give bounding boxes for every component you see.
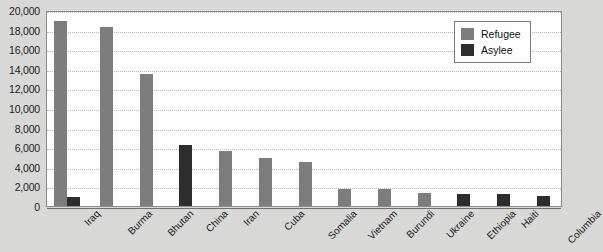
- y-axis-tick-label: 16,000: [9, 44, 40, 56]
- legend-item-refugee[interactable]: Refugee: [461, 26, 521, 42]
- x-axis-label-burundi: Burundi: [404, 208, 436, 240]
- x-axis-label-iraq: Iraq: [82, 208, 102, 228]
- bar-iran-refugee: [219, 151, 232, 206]
- y-axis-tick-label: 6,000: [15, 142, 40, 154]
- legend-label-asylee: Asylee: [481, 44, 513, 56]
- x-axis-label-cuba: Cuba: [282, 208, 307, 233]
- x-axis-label-iran: Iran: [241, 208, 261, 228]
- legend: RefugeeAsylee: [454, 21, 531, 63]
- y-axis-tick-label: 20,000: [9, 5, 40, 17]
- y-axis-tick-label: 4,000: [15, 162, 40, 174]
- legend-label-refugee: Refugee: [481, 28, 521, 40]
- y-axis-tick-label: 10,000: [9, 103, 40, 115]
- bar-iraq-asylee: [67, 197, 80, 206]
- y-axis-tick-label: 14,000: [9, 64, 40, 76]
- bar-somalia-refugee: [299, 162, 312, 206]
- bar-china-asylee: [179, 145, 192, 206]
- bar-ukraine-refugee: [418, 193, 431, 206]
- y-axis-tick-label: 18,000: [9, 25, 40, 37]
- x-axis-label-haiti: Haiti: [519, 208, 541, 230]
- x-axis-label-ukraine: Ukraine: [444, 208, 476, 240]
- bar-iraq-refugee: [54, 21, 67, 206]
- x-axis-label-somalia: Somalia: [326, 208, 359, 241]
- legend-swatch-refugee: [461, 28, 474, 40]
- bar-columbia-asylee: [537, 196, 550, 206]
- y-axis-tick-label: 12,000: [9, 83, 40, 95]
- y-axis-tick-label: 8,000: [15, 123, 40, 135]
- x-axis-category-labels: IraqBurmaBhutanChinaIranCubaSomaliaVietn…: [46, 208, 562, 252]
- x-axis-label-vietnam: Vietnam: [365, 208, 399, 242]
- x-axis-label-columbia: Columbia: [566, 208, 603, 246]
- x-axis-label-ethiopia: Ethiopia: [484, 208, 517, 241]
- y-axis: 20,00018,00016,00014,00012,00010,0008,00…: [0, 11, 44, 207]
- bar-cuba-refugee: [259, 158, 272, 207]
- y-axis-tick-label: 2,000: [15, 181, 40, 193]
- legend-item-asylee[interactable]: Asylee: [461, 42, 521, 58]
- bar-burma-refugee: [100, 27, 113, 206]
- bar-ethiopia-asylee: [457, 194, 470, 206]
- bar-haiti-asylee: [497, 194, 510, 206]
- x-axis-label-china: China: [204, 208, 230, 234]
- y-axis-tick-label: 0: [34, 201, 40, 213]
- bar-vietnam-refugee: [338, 189, 351, 206]
- x-axis-label-burma: Burma: [125, 208, 154, 237]
- bar-burundi-refugee: [378, 189, 391, 206]
- bar-bhutan-refugee: [140, 74, 153, 206]
- x-axis-label-bhutan: Bhutan: [166, 208, 196, 238]
- legend-swatch-asylee: [461, 44, 474, 56]
